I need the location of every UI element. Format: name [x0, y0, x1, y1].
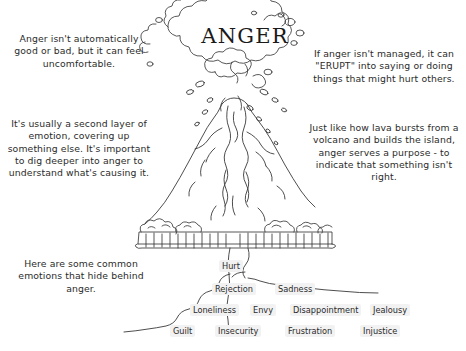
emotion-word: Envy — [250, 304, 276, 316]
emotion-word: Loneliness — [190, 304, 239, 316]
underground-chamber-line-icon — [124, 272, 378, 332]
rising-smoke-puffs-icon — [186, 48, 287, 113]
rocky-ground-band-icon — [135, 219, 335, 249]
page-title: ANGER — [186, 24, 304, 48]
emotion-word: Frustration — [285, 325, 335, 337]
anger-volcano-poster: ANGER Anger isn't automatically good or … — [0, 0, 466, 351]
emotion-word: Insecurity — [215, 325, 261, 337]
left-paragraph-1: Anger isn't automatically good or bad, b… — [8, 33, 150, 70]
emotion-word: Guilt — [170, 325, 195, 337]
emotion-word: Rejection — [212, 283, 256, 295]
lava-spray-icon — [194, 96, 278, 145]
right-paragraph-2: Just like how lava bursts from a volcano… — [306, 122, 462, 183]
emotion-word: Sadness — [275, 283, 315, 295]
right-paragraph-1: If anger isn't managed, it can "ERUPT" i… — [308, 48, 460, 85]
emotion-word: Hurt — [219, 260, 243, 272]
lava-flows-icon — [189, 106, 285, 221]
emotion-word: Jealousy — [370, 304, 410, 316]
emotion-word: Disappointment — [290, 304, 361, 316]
left-paragraph-2: It's usually a second layer of emotion, … — [6, 118, 152, 179]
emotion-word: Injustice — [360, 325, 400, 337]
volcano-cone-icon — [145, 98, 315, 224]
left-paragraph-3: Here are some common emotions that hide … — [14, 258, 148, 295]
